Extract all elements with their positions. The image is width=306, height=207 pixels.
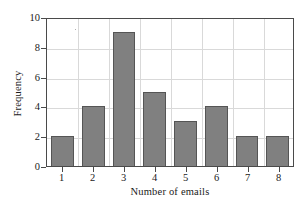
x-axis-title-text: Number of emails — [130, 186, 209, 197]
bar-slot — [78, 19, 109, 166]
x-tick-label: 7 — [240, 172, 256, 183]
y-tick-label: 10 — [16, 13, 40, 23]
histogram-chart: Frequency 0246810 12345678 Number of ema… — [0, 0, 306, 207]
y-tick-label: 6 — [16, 73, 40, 83]
y-tick-label: 8 — [16, 43, 40, 53]
bar-slot — [262, 19, 293, 166]
x-tick-label: 5 — [178, 172, 194, 183]
bar-slot — [232, 19, 263, 166]
bar-2[interactable] — [82, 106, 105, 166]
bar-5[interactable] — [174, 121, 197, 166]
y-tick-mark — [41, 167, 46, 168]
stray-speck-icon — [75, 29, 76, 30]
y-axis-title: Frequency — [10, 58, 24, 128]
bar-7[interactable] — [236, 136, 259, 166]
x-tick-label: 8 — [271, 172, 287, 183]
bar-slot — [109, 19, 140, 166]
bar-slot — [139, 19, 170, 166]
bar-series — [47, 19, 293, 166]
x-tick-label: 1 — [54, 172, 70, 183]
x-axis-title: Number of emails — [46, 186, 294, 197]
plot-area — [46, 18, 294, 167]
bar-1[interactable] — [51, 136, 74, 166]
y-tick-label: 2 — [16, 132, 40, 142]
bar-slot — [170, 19, 201, 166]
y-tick-label: 4 — [16, 102, 40, 112]
bar-slot — [47, 19, 78, 166]
x-tick-label: 2 — [85, 172, 101, 183]
bar-6[interactable] — [205, 106, 228, 166]
x-tick-label: 3 — [116, 172, 132, 183]
bar-slot — [201, 19, 232, 166]
x-tick-label: 6 — [209, 172, 225, 183]
bar-8[interactable] — [266, 136, 289, 166]
bar-4[interactable] — [143, 92, 166, 167]
y-tick-label: 0 — [16, 162, 40, 172]
bar-3[interactable] — [113, 32, 136, 166]
x-tick-label: 4 — [147, 172, 163, 183]
